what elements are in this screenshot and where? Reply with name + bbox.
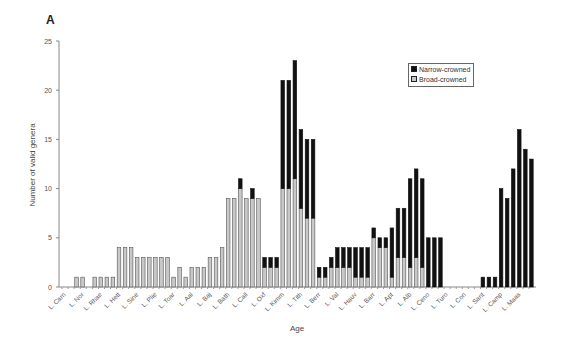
bar-narrow-crowned — [275, 257, 279, 267]
legend-item-broad: Broad-crowned — [409, 74, 473, 84]
bar-broad-crowned — [293, 179, 297, 287]
bar-broad-crowned — [269, 267, 273, 287]
x-tick-label: L. Tith — [286, 290, 304, 308]
bar-broad-crowned — [354, 277, 358, 287]
bar-narrow-crowned — [317, 267, 321, 277]
bar-broad-crowned — [105, 277, 109, 287]
bar-narrow-crowned — [487, 277, 491, 287]
bar-broad-crowned — [154, 257, 158, 287]
bar-narrow-crowned — [251, 189, 255, 199]
bar-narrow-crowned — [408, 179, 412, 268]
bar-broad-crowned — [329, 267, 333, 287]
y-axis-label: Number of valid genera — [28, 123, 37, 206]
bar-broad-crowned — [287, 189, 291, 287]
bar-narrow-crowned — [402, 208, 406, 257]
bar-narrow-crowned — [481, 277, 485, 287]
legend: Narrow-crowned Broad-crowned — [408, 63, 474, 87]
bar-broad-crowned — [129, 248, 133, 287]
bar-broad-crowned — [348, 267, 352, 287]
bar-broad-crowned — [384, 248, 388, 287]
bar-broad-crowned — [117, 248, 121, 287]
bar-narrow-crowned — [336, 248, 340, 268]
x-tick-label: L. Maas — [500, 290, 522, 312]
bar-broad-crowned — [166, 257, 170, 287]
x-tick-label: L. Hauv — [337, 290, 358, 311]
bar-narrow-crowned — [427, 238, 431, 287]
x-tick-label: L. Turo — [430, 290, 450, 310]
bar-broad-crowned — [148, 257, 152, 287]
bar-broad-crowned — [372, 238, 376, 287]
bar-narrow-crowned — [293, 61, 297, 179]
bar-broad-crowned — [190, 267, 194, 287]
bar-broad-crowned — [232, 198, 236, 287]
bar-broad-crowned — [275, 267, 279, 287]
x-tick-label: L. Camp — [481, 290, 504, 313]
bar-broad-crowned — [172, 277, 176, 287]
bar-broad-crowned — [366, 277, 370, 287]
bar-narrow-crowned — [342, 248, 346, 268]
bar-broad-crowned — [196, 267, 200, 287]
bar-broad-crowned — [257, 198, 261, 287]
bar-narrow-crowned — [378, 238, 382, 248]
bar-broad-crowned — [81, 277, 85, 287]
legend-label: Broad-crowned — [419, 76, 466, 83]
bar-broad-crowned — [336, 267, 340, 287]
bar-broad-crowned — [263, 267, 267, 287]
bar-narrow-crowned — [517, 130, 521, 287]
y-tick-label: 20 — [44, 87, 52, 94]
bar-narrow-crowned — [433, 238, 437, 287]
bar-broad-crowned — [184, 277, 188, 287]
stacked-bar-chart: 0510152025 L. CarnL. NorL. RhaeL. HettL.… — [0, 0, 561, 349]
x-tick-label: L. Barr — [357, 290, 376, 309]
bar-broad-crowned — [420, 267, 424, 287]
x-tick-label: L. Kimm — [263, 291, 285, 313]
bar-broad-crowned — [360, 277, 364, 287]
bar-broad-crowned — [408, 267, 412, 287]
x-tick-label: L. Hett — [103, 291, 122, 310]
bar-broad-crowned — [323, 277, 327, 287]
bar-broad-crowned — [245, 198, 249, 287]
bar-narrow-crowned — [511, 169, 515, 287]
bar-narrow-crowned — [390, 228, 394, 277]
x-tick-label: L. Carn — [47, 290, 67, 310]
bar-narrow-crowned — [530, 159, 534, 287]
x-axis-label: Age — [290, 324, 304, 333]
bars — [75, 61, 533, 287]
bar-narrow-crowned — [499, 189, 503, 287]
x-tick-label: L. Sine — [120, 290, 140, 310]
bar-narrow-crowned — [505, 198, 509, 287]
bar-narrow-crowned — [269, 257, 273, 267]
bar-broad-crowned — [135, 257, 139, 287]
bar-narrow-crowned — [305, 139, 309, 218]
bar-broad-crowned — [305, 218, 309, 287]
bar-broad-crowned — [178, 267, 182, 287]
bar-narrow-crowned — [420, 179, 424, 268]
bar-narrow-crowned — [329, 257, 333, 267]
bar-broad-crowned — [390, 277, 394, 287]
bar-broad-crowned — [226, 198, 230, 287]
bar-broad-crowned — [111, 277, 115, 287]
bar-broad-crowned — [75, 277, 79, 287]
bar-broad-crowned — [220, 248, 224, 287]
bar-broad-crowned — [141, 257, 145, 287]
bar-broad-crowned — [414, 257, 418, 287]
legend-swatch-narrow — [411, 66, 417, 72]
legend-label: Narrow-crowned — [419, 66, 470, 73]
bar-narrow-crowned — [348, 248, 352, 268]
bar-narrow-crowned — [354, 248, 358, 278]
x-tick-label: L. Aal — [178, 290, 195, 307]
bar-narrow-crowned — [299, 130, 303, 209]
bar-narrow-crowned — [414, 169, 418, 258]
bar-broad-crowned — [93, 277, 97, 287]
bar-broad-crowned — [299, 208, 303, 287]
y-tick-label: 10 — [44, 185, 52, 192]
bar-narrow-crowned — [287, 80, 291, 188]
bar-narrow-crowned — [281, 80, 285, 188]
bar-narrow-crowned — [311, 139, 315, 218]
y-tick-label: 0 — [48, 284, 52, 291]
x-tick-label: L. Apt — [378, 291, 396, 309]
bar-narrow-crowned — [524, 149, 528, 287]
bar-narrow-crowned — [323, 267, 327, 277]
bar-broad-crowned — [281, 189, 285, 287]
y-tick-label: 25 — [44, 38, 52, 45]
